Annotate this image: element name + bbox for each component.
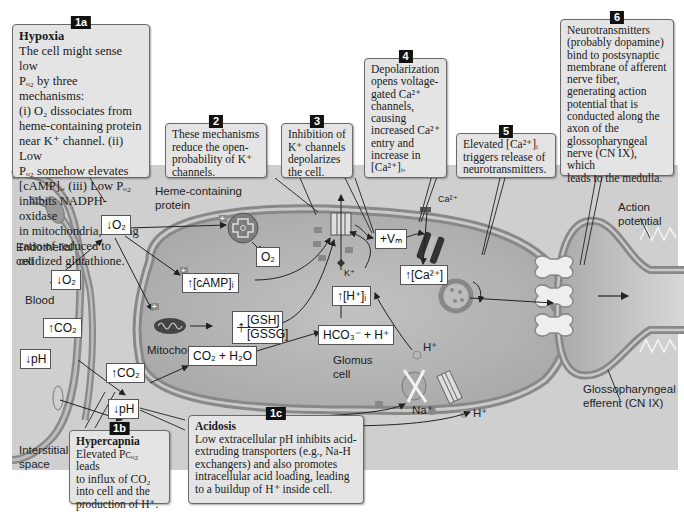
box-ph-decrease-blood: ↓pH <box>20 349 51 369</box>
box-o2-decrease-blood: ↓O₂ <box>51 270 81 290</box>
heme-protein <box>228 213 258 243</box>
svg-text:+: + <box>220 214 225 223</box>
callout-body: The cell might sense low Pₒ₂ by three me… <box>19 44 143 269</box>
vesicle <box>441 281 471 311</box>
callout-3: 3 Inhibition of K⁺ channels depolarizes … <box>281 123 353 178</box>
box-gsh-gssg-ratio: ↑ [GSH] [GSSG] <box>232 311 283 344</box>
box-co2-h2o: CO₂ + H₂O <box>188 346 257 366</box>
label-glomus-cell: Glomuscell <box>333 353 373 381</box>
afferent-nerve-terminal <box>535 221 684 376</box>
callout-4: 4 Depolarization opens voltage- gated Ca… <box>364 58 447 178</box>
box-co2-increase-blood: ↑CO₂ <box>43 318 82 338</box>
label-glossopharyngeal: Glossopharyngealefferent (CN IX) <box>583 382 676 410</box>
box-camp-increase: ↑[cAMP]ᵢ <box>182 273 239 293</box>
box-vm: +Vₘ <box>375 229 407 249</box>
label-na-ion: Na⁺ <box>412 403 433 417</box>
box-ca-increase: ↑[Ca²⁺] <box>400 265 448 285</box>
box-hco3-h: HCO₃⁻ + H⁺ <box>318 325 394 345</box>
label-ca-ion: Ca²⁺ <box>438 192 458 206</box>
label-blood: Blood <box>25 293 54 307</box>
callout-title: Hypoxia <box>19 29 143 44</box>
box-h-increase: ↑[H⁺]ᵢ <box>332 286 371 306</box>
callout-2: 2 These mechanisms reduce the open- prob… <box>165 123 267 178</box>
label-interstitial-space: Interstitialspace <box>19 443 68 471</box>
label-h-ion-inside: H⁺ <box>423 340 437 354</box>
svg-text:+: + <box>152 302 157 311</box>
box-o2-decrease: ↓O₂ <box>101 215 131 235</box>
label-action-potential: Actionpotential <box>618 200 661 228</box>
label-endothelial-cell: Endothelialcell <box>16 240 73 268</box>
box-o2-released: O₂ <box>256 247 280 267</box>
callout-6: 6 Neurotransmitters (probably dopamine) … <box>560 19 674 176</box>
box-ph-decrease-interstitial: ↓pH <box>108 399 139 419</box>
label-k-ion: K⁺ <box>344 266 355 280</box>
box-co2-increase-interstitial: ↑CO₂ <box>106 363 145 383</box>
callout-1c-acidosis: 1c Acidosis Low extracellular pH inhibit… <box>188 415 364 504</box>
callout-5: 5 Elevated [Ca²⁺]ᵢ triggers release of n… <box>456 133 556 178</box>
label-h-ion-outside: H⁺ <box>473 406 487 420</box>
callout-1a-hypoxia: 1a Hypoxia The cell might sense low Pₒ₂ … <box>12 24 150 178</box>
mitochondrion-shape <box>154 318 186 334</box>
label-heme-protein: Heme-containingprotein <box>155 184 242 212</box>
h-ion-inside <box>413 351 421 359</box>
callout-1b-hypercapnia: 1b Hypercapnia Elevated Pᴄₒ₂ leads to in… <box>69 430 170 504</box>
